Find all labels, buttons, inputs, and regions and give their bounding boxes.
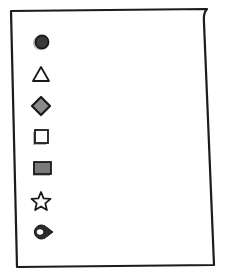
list-sheet-diagram	[0, 0, 228, 273]
filled-rectangle-icon	[33, 162, 51, 176]
square-icon	[33, 130, 48, 145]
